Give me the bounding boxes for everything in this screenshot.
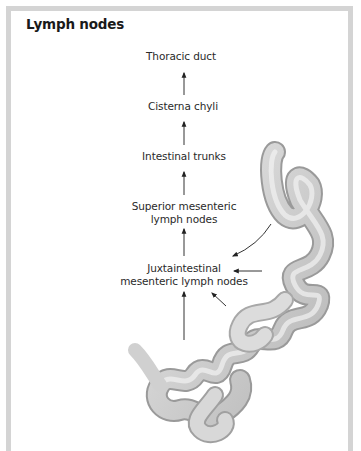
- intestine-illustration: [135, 152, 323, 434]
- arrow-diagonal-from-lower-intestine: [212, 293, 226, 306]
- arrow-curved-from-upper-intestine: [233, 224, 271, 256]
- flow-arrows: [184, 73, 271, 340]
